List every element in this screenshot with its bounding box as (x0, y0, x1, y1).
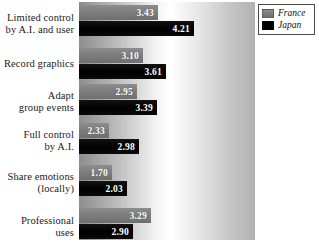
category-label-line1: Full control (24, 129, 75, 140)
bar-france-share-emotions: 1.70 (79, 165, 112, 180)
category-label-line1: Limited control (7, 12, 74, 23)
category-label-line1: Record graphics (4, 58, 74, 69)
category-label: Adapt group events (0, 90, 74, 113)
legend-item-japan: Japan (262, 19, 311, 31)
bar-japan-professional-uses: 2.90 (79, 224, 133, 239)
legend-swatch-japan-icon (262, 21, 274, 30)
legend-label-france: France (278, 8, 305, 18)
bar-france-full-control: 2.33 (79, 123, 109, 138)
category-label: Full control by A.I. (0, 129, 74, 152)
category-label-line2: by A.I. and user (0, 24, 74, 36)
bar-france-limited-control: 3.43 (79, 5, 158, 20)
bar-france-professional-uses: 3.29 (79, 208, 151, 223)
bar-japan-record-graphics: 3.61 (79, 64, 166, 79)
bar-value-label: 4.21 (173, 24, 194, 34)
category-label-line2: by A.I. (0, 141, 74, 153)
category-label-line1: Share emotions (8, 171, 74, 182)
legend-swatch-france-icon (262, 9, 274, 18)
bar-japan-limited-control: 4.21 (79, 21, 194, 36)
category-label-line2: (locally) (0, 183, 74, 195)
bar-value-label: 3.39 (136, 103, 157, 113)
bar-value-label: 3.10 (122, 51, 143, 61)
horizontal-bar-chart: Limited control by A.I. and user 3.43 4.… (0, 0, 319, 242)
bar-value-label: 3.61 (145, 67, 166, 77)
category-label: Record graphics (0, 58, 74, 70)
bar-value-label: 2.33 (88, 126, 109, 136)
bar-japan-share-emotions: 2.03 (79, 181, 127, 196)
category-label-line2: group events (0, 102, 74, 114)
bar-value-label: 1.70 (91, 168, 112, 178)
bar-value-label: 2.98 (118, 142, 139, 152)
bar-japan-full-control: 2.98 (79, 139, 139, 154)
bar-japan-adapt-group-events: 3.39 (79, 100, 157, 115)
category-label: Share emotions (locally) (0, 171, 74, 194)
bar-france-record-graphics: 3.10 (79, 48, 143, 63)
bar-value-label: 3.29 (130, 211, 151, 221)
category-label: Limited control by A.I. and user (0, 12, 74, 35)
bar-value-label: 2.03 (106, 184, 127, 194)
bar-france-adapt-group-events: 2.95 (79, 84, 137, 99)
legend-label-japan: Japan (278, 20, 301, 30)
bar-value-label: 2.95 (116, 87, 137, 97)
bar-value-label: 3.43 (137, 8, 158, 18)
category-label-line1: Adapt (48, 90, 74, 101)
legend-item-france: France (262, 7, 311, 19)
chart-legend: France Japan (258, 4, 315, 35)
plot-area (79, 2, 255, 240)
category-label-line1: Professional uses (21, 215, 74, 238)
bar-value-label: 2.90 (112, 227, 133, 237)
category-label: Professional uses (0, 215, 74, 238)
